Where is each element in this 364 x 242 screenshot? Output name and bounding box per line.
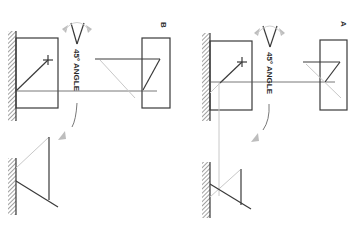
angle-label: 45° ANGLE (265, 52, 274, 95)
angle-v-icon (254, 26, 285, 47)
object-block (142, 38, 170, 108)
object-block (320, 40, 347, 110)
angle-v-icon (62, 23, 92, 45)
wall-hatch (8, 158, 16, 215)
mirror-block (210, 41, 252, 110)
mirror-block (16, 38, 58, 108)
wall-hatch (8, 31, 16, 121)
panel-a: 45° ANGLE A (202, 21, 348, 218)
panel-b: 45° ANGLE B (8, 22, 170, 215)
mirror-angle-diagram: 45° ANGLE B (0, 0, 364, 242)
wall-hatch (202, 33, 210, 121)
wall-hatch (202, 162, 210, 218)
panel-label-b: B (159, 22, 168, 28)
angle-label: 45° ANGLE (72, 49, 81, 92)
panel-label-a: A (339, 21, 348, 27)
